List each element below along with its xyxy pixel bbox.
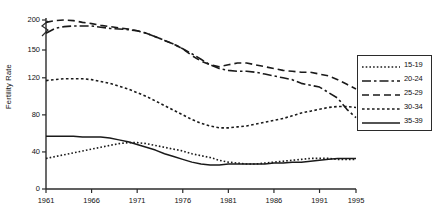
x-tick-label: 1976: [169, 196, 197, 205]
legend-swatch-25-29: [361, 87, 401, 99]
legend-item-25-29[interactable]: 25-29: [361, 87, 431, 99]
x-tick-label: 1966: [78, 196, 106, 205]
x-tick-label: 1991: [306, 196, 334, 205]
legend-swatch-15-19: [361, 59, 401, 71]
series-line-30-34: [46, 79, 356, 128]
legend-swatch-35-39: [361, 115, 401, 127]
fertility-rate-line-chart: Fertility Rate 04080120150200 1961196619…: [0, 0, 438, 218]
x-tick-label: 1971: [123, 196, 151, 205]
y-axis-break-mark: [42, 21, 48, 36]
legend-label-20-24: 20-24: [404, 74, 423, 83]
legend[interactable]: 15-1920-2425-2930-3435-39: [357, 55, 432, 131]
y-tick-label: 40: [14, 147, 40, 156]
legend-item-30-34[interactable]: 30-34: [361, 101, 431, 113]
y-tick-label: 0: [14, 184, 40, 193]
y-tick-label: 120: [14, 73, 40, 82]
legend-label-35-39: 35-39: [404, 116, 423, 125]
data-series-group: [46, 20, 356, 165]
y-axis-title: Fertility Rate: [4, 57, 13, 117]
y-tick-label: 150: [14, 45, 40, 54]
legend-label-15-19: 15-19: [404, 60, 423, 69]
series-line-25-29: [46, 20, 356, 89]
legend-item-35-39[interactable]: 35-39: [361, 115, 431, 127]
x-tick-label: 1995: [342, 196, 370, 205]
legend-item-15-19[interactable]: 15-19: [361, 59, 431, 71]
legend-swatch-30-34: [361, 101, 401, 113]
legend-label-30-34: 30-34: [404, 102, 423, 111]
y-tick-label: 80: [14, 110, 40, 119]
series-line-20-24: [46, 26, 356, 118]
legend-label-25-29: 25-29: [404, 88, 423, 97]
x-tick-label: 1961: [32, 196, 60, 205]
legend-swatch-20-24: [361, 73, 401, 85]
x-tick-label: 1981: [214, 196, 242, 205]
legend-item-20-24[interactable]: 20-24: [361, 73, 431, 85]
y-tick-label: 200: [14, 15, 40, 24]
series-line-35-39: [46, 136, 356, 165]
x-tick-label: 1986: [260, 196, 288, 205]
